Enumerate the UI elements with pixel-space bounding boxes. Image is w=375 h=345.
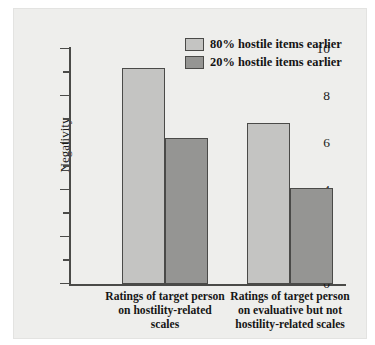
y-tick-label: 6 <box>323 135 330 151</box>
y-tick-major <box>60 48 69 50</box>
y-tick-minor <box>63 118 69 120</box>
category-label: Ratings of target personon evaluative bu… <box>210 290 370 332</box>
plot-area: 0246810 <box>69 49 344 284</box>
bar <box>247 123 290 284</box>
legend-swatch-icon <box>185 56 204 69</box>
legend-swatch-icon <box>185 38 204 51</box>
bar <box>290 188 333 284</box>
bar <box>165 138 208 284</box>
figure-panel: Negativity 0246810 Ratings of target per… <box>14 9 366 338</box>
legend: 80% hostile items earlier 20% hostile it… <box>185 37 342 73</box>
y-tick-minor <box>63 212 69 214</box>
category-label-line: hostility-related scales <box>210 318 370 332</box>
bar <box>122 68 165 284</box>
category-label-line: Ratings of target person <box>210 290 370 304</box>
y-tick-major <box>60 95 69 97</box>
y-tick-label: 8 <box>323 88 330 104</box>
y-tick-minor <box>63 165 69 167</box>
y-tick-major <box>60 236 69 238</box>
category-label-line: on evaluative but not <box>210 304 370 318</box>
legend-item: 20% hostile items earlier <box>185 55 342 70</box>
y-tick-major <box>60 189 69 191</box>
x-axis-line <box>69 284 346 286</box>
y-tick-major <box>60 142 69 144</box>
y-tick-minor <box>63 71 69 73</box>
legend-item: 80% hostile items earlier <box>185 37 342 52</box>
y-tick-minor <box>63 259 69 261</box>
legend-label: 20% hostile items earlier <box>210 55 342 70</box>
legend-label: 80% hostile items earlier <box>210 37 342 52</box>
y-tick-major <box>60 283 69 285</box>
